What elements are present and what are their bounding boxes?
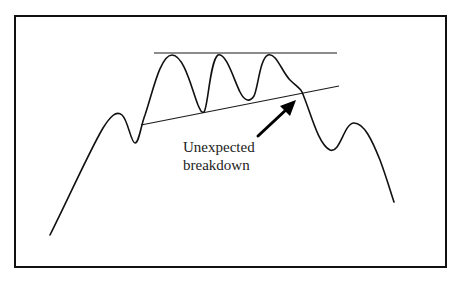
annotation-line-1: Unexpected [183,138,255,156]
breakdown-arrow-shaft [258,108,288,136]
annotation-line-2: breakdown [183,156,255,174]
annotation-label: Unexpected breakdown [183,138,255,174]
